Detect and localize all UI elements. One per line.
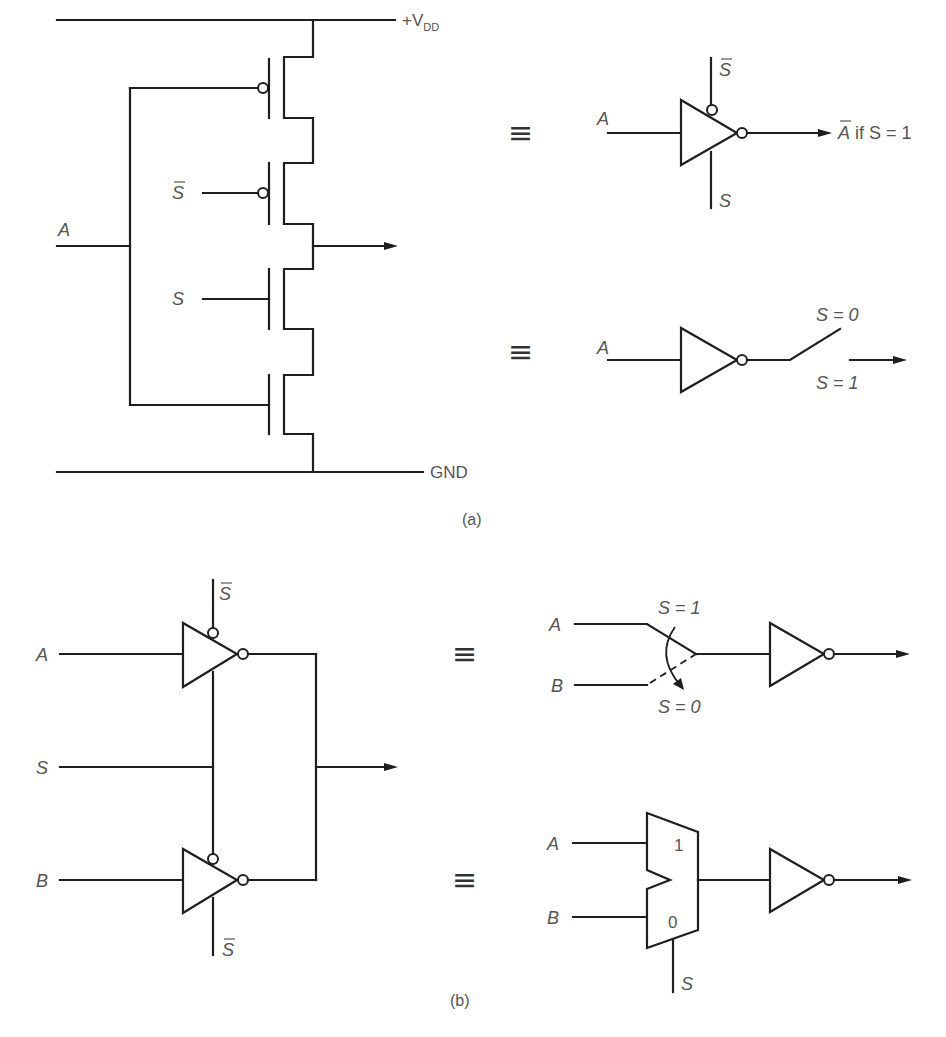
caption-b: (b) — [450, 992, 470, 1009]
switch-open-label: S = 0 — [816, 305, 859, 325]
b-dashed-path — [650, 654, 696, 683]
select-label: S — [681, 974, 693, 994]
output-bubble — [737, 128, 747, 138]
channel-stack — [284, 20, 313, 472]
tristate-inverter-figure: +VDD GND S S A ≡ A — [0, 0, 946, 1037]
two-tristate-mux-schematic: A S S B S — [35, 580, 398, 960]
mux-input-1-label: 1 — [674, 836, 683, 855]
inverter-triangle — [681, 328, 737, 392]
equivalent-switch-selector: ≡ A B S = 1 S = 0 — [452, 598, 910, 717]
output-bubble — [737, 355, 747, 365]
s-input-label: S — [172, 289, 184, 309]
caption-a: (a) — [462, 511, 482, 528]
a-label: A — [546, 834, 559, 854]
switch-closed-label: S = 1 — [816, 373, 859, 393]
a-input-label: A — [57, 220, 70, 240]
vdd-label: +VDD — [402, 11, 439, 33]
tristate-a-output-bubble — [238, 649, 248, 659]
a-input-label: A — [35, 645, 48, 665]
output-arrow-icon — [818, 129, 832, 137]
a-label: A — [596, 109, 609, 129]
equivalence-icon: ≡ — [452, 636, 477, 671]
s-label: S — [719, 191, 731, 211]
gnd-label: GND — [430, 463, 468, 482]
equivalence-icon: ≡ — [508, 115, 533, 150]
s-input-label: S — [36, 758, 48, 778]
a-label: A — [548, 615, 561, 635]
output-arrow-icon — [893, 356, 907, 364]
enable-bubble — [707, 105, 717, 115]
output-arrow-icon — [384, 763, 398, 771]
equivalent-inverter-switch: ≡ A S = 0 S = 1 — [508, 305, 907, 393]
a-switch-path — [575, 624, 696, 654]
inverter-triangle — [770, 849, 824, 912]
switch-arm — [747, 329, 840, 360]
equivalence-icon: ≡ — [452, 862, 477, 897]
a-label: A — [596, 338, 609, 358]
equivalent-mux: ≡ A B 1 0 S — [452, 813, 912, 994]
output-arrow-icon — [898, 876, 912, 884]
output-bubble — [824, 875, 834, 885]
output-label: A if S = 1 — [837, 123, 912, 143]
output-arrow-icon — [384, 242, 398, 250]
equivalent-tristate-symbol: ≡ A S S A if S = 1 — [508, 58, 912, 211]
inverter-triangle — [770, 623, 824, 686]
tristate-b-enable-bubble — [208, 854, 218, 864]
tristate-a-enable-bubble — [208, 628, 218, 638]
sbar-bottom-label: S — [222, 940, 234, 960]
switch-top-label: S = 1 — [658, 598, 701, 618]
b-label: B — [547, 908, 559, 928]
mux-input-0-label: 0 — [668, 913, 677, 932]
output-bubble — [824, 649, 834, 659]
output-arrow-icon — [896, 650, 910, 658]
equivalence-icon: ≡ — [508, 334, 533, 369]
switch-bottom-label: S = 0 — [658, 697, 701, 717]
sbar-label: S — [719, 60, 731, 80]
b-input-label: B — [36, 871, 48, 891]
sbar-top-label: S — [219, 584, 231, 604]
sbar-input-label: S — [172, 183, 184, 203]
tristate-b-output-bubble — [238, 875, 248, 885]
pmos-a-bubble — [258, 83, 268, 93]
cmos-tristate-inverter-schematic: +VDD GND S S A — [57, 11, 468, 482]
b-label: B — [551, 676, 563, 696]
pmos-sbar-bubble — [258, 188, 268, 198]
circuit-diagram: +VDD GND S S A ≡ A — [0, 0, 946, 1037]
arc-arrow-icon — [673, 678, 684, 690]
